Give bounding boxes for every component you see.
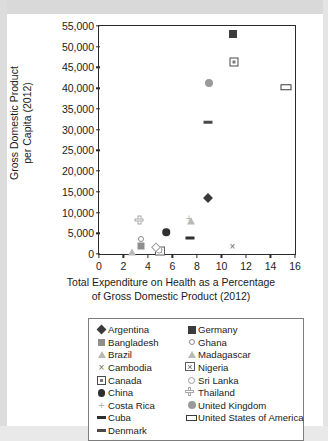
legend-item: Brazil <box>95 349 177 361</box>
legend-item: +Costa Rica <box>95 400 177 412</box>
marker-rect-open <box>186 415 197 421</box>
x-tick-label: 4 <box>145 254 151 272</box>
plot-area: 05,00010,00015,00020,00025,00030,00035,0… <box>98 25 296 255</box>
x-tick-label: 2 <box>121 254 127 272</box>
legend-marker <box>185 400 198 411</box>
data-point <box>229 30 237 38</box>
marker-rect-open <box>281 85 292 91</box>
y-tick-label: 5,000 <box>68 227 99 239</box>
y-tick-label: 45,000 <box>62 61 99 73</box>
marker-cross-plus <box>187 388 196 397</box>
marker-triangle-light <box>128 248 136 255</box>
legend-item: Ghana <box>185 337 297 349</box>
data-point <box>135 216 144 225</box>
data-point <box>185 237 194 240</box>
legend-label: Ghana <box>198 337 227 348</box>
legend-item: Denmark <box>95 425 177 437</box>
legend-item: ×Cambodia <box>95 362 177 374</box>
legend-marker: + <box>95 400 108 411</box>
legend-marker <box>95 412 108 423</box>
marker-plus: + <box>98 402 104 409</box>
legend-column-right: GermanyGhanaMadagascar×NigeriaSri LankaT… <box>185 324 297 436</box>
marker-x: × <box>230 242 236 249</box>
legend-item: Madagascar <box>185 349 297 361</box>
legend-item: ×Nigeria <box>185 362 297 374</box>
legend-label: Cambodia <box>108 362 152 373</box>
marker-circle-gray <box>188 401 196 409</box>
legend-item: United Kingdom <box>185 400 297 412</box>
legend-label: Thailand <box>198 387 235 398</box>
x-tick-label: 16 <box>289 254 301 272</box>
marker-circle-gray <box>205 79 213 87</box>
marker-square-dark <box>188 326 196 334</box>
data-point <box>128 248 136 255</box>
legend-marker <box>95 349 108 360</box>
x-axis-label-line1: Total Expenditure on Health as a Percent… <box>67 276 275 288</box>
legend-marker <box>185 412 198 423</box>
x-tick-label: 14 <box>265 254 277 272</box>
legend-label: United Kingdom <box>198 400 266 411</box>
legend-label: Denmark <box>108 425 147 436</box>
legend-marker <box>185 375 198 386</box>
x-tick-label: 12 <box>240 254 252 272</box>
y-tick-label: 35,000 <box>62 103 99 115</box>
legend-item: Argentina <box>95 324 177 336</box>
legend-item: Canada <box>95 374 177 386</box>
marker-triangle-light <box>98 351 106 358</box>
marker-bowtie: × <box>187 363 197 372</box>
data-point <box>163 228 171 236</box>
legend-label: Germany <box>198 324 237 335</box>
legend-marker <box>185 337 198 348</box>
marker-diamond-filled <box>97 325 107 335</box>
y-tick-label: 40,000 <box>62 82 99 94</box>
legend-marker <box>185 387 198 398</box>
legend-label: Nigeria <box>198 362 228 373</box>
legend-label: Costa Rica <box>108 400 155 411</box>
marker-dash2 <box>97 429 106 432</box>
y-tick-label: 15,000 <box>62 186 99 198</box>
y-axis-label-line1: Gross Domestic Product <box>8 66 20 180</box>
legend-label: Canada <box>108 375 142 386</box>
legend-column-left: ArgentinaBangladeshBrazil×CambodiaCanada… <box>95 324 177 436</box>
y-axis-label-line2: per Capita (2012) <box>21 82 33 164</box>
data-point <box>229 58 238 67</box>
marker-circle-open <box>188 377 195 384</box>
data-point <box>208 198 215 205</box>
legend-label: Cuba <box>108 412 131 423</box>
marker-circle-filled <box>98 389 106 397</box>
scan-edge-top <box>0 0 328 14</box>
legend-marker <box>95 337 108 348</box>
marker-cross-plus <box>135 216 144 225</box>
scatter-chart: Gross Domestic Product per Capita (2012)… <box>0 14 328 304</box>
marker-diamond-open <box>151 243 160 252</box>
legend-marker: × <box>95 362 108 373</box>
marker-triangle-light <box>187 217 195 224</box>
marker-square-gray <box>137 242 144 249</box>
legend-item: Germany <box>185 324 297 336</box>
marker-dash <box>97 416 106 419</box>
legend-label: Bangladesh <box>108 337 159 348</box>
marker-circle-open-sm <box>189 339 195 345</box>
y-tick-label: 20,000 <box>62 165 99 177</box>
y-tick-label: 55,000 <box>62 20 99 32</box>
data-point <box>137 242 144 249</box>
legend-item: United States of America <box>185 412 297 424</box>
legend-marker <box>95 387 108 398</box>
marker-diamond-filled <box>203 193 213 203</box>
marker-square-gray <box>98 339 105 346</box>
chart-legend: ArgentinaBangladeshBrazil×CambodiaCanada… <box>88 318 304 441</box>
legend-label: Argentina <box>108 324 149 335</box>
data-point: × <box>230 242 236 249</box>
y-axis-label: Gross Domestic Product per Capita (2012) <box>8 38 34 208</box>
x-tick-label: 0 <box>96 254 102 272</box>
x-axis-label-line2: of Gross Domestic Product (2012) <box>92 290 251 302</box>
data-point <box>281 85 292 91</box>
marker-square-dark <box>229 30 237 38</box>
legend-label: China <box>108 387 133 398</box>
marker-x: × <box>99 364 105 371</box>
data-point <box>205 79 213 87</box>
x-tick-label: 10 <box>216 254 228 272</box>
legend-item: Thailand <box>185 387 297 399</box>
legend-label: Brazil <box>108 349 132 360</box>
